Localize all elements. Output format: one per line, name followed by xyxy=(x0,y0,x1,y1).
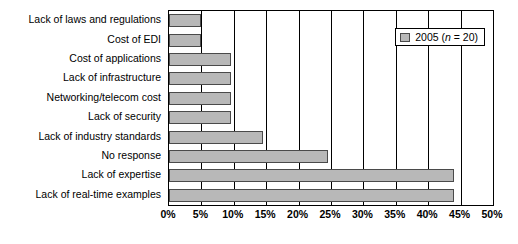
bar xyxy=(169,34,201,47)
category-label: Lack of expertise xyxy=(82,169,161,180)
category-label: Networking/telecom cost xyxy=(47,92,161,103)
value-tick-label: 50% xyxy=(472,208,512,220)
bar xyxy=(169,72,231,85)
legend: 2005 (n = 20) xyxy=(395,28,485,46)
bar xyxy=(169,131,263,144)
bar xyxy=(169,111,231,124)
category-label: Lack of laws and regulations xyxy=(29,14,162,25)
category-label: Lack of industry standards xyxy=(38,131,161,142)
bar xyxy=(169,53,231,66)
legend-swatch-2005 xyxy=(400,33,410,42)
value-axis-labels: 0%5%10%15%20%25%30%35%40%45%50% xyxy=(168,208,494,224)
category-label: Lack of security xyxy=(88,111,161,122)
bar xyxy=(169,14,201,27)
category-label: Lack of infrastructure xyxy=(63,72,161,83)
bar xyxy=(169,189,454,202)
horizontal-bar-chart: Lack of laws and regulationsCost of EDIC… xyxy=(0,0,518,244)
category-label: Cost of EDI xyxy=(107,34,161,45)
plot-area: 2005 (n = 20) xyxy=(168,10,494,206)
legend-label-2005: 2005 (n = 20) xyxy=(415,31,478,43)
category-label: Lack of real-time examples xyxy=(36,189,161,200)
bar xyxy=(169,169,454,182)
category-label: Cost of applications xyxy=(69,53,161,64)
bar xyxy=(169,150,328,163)
category-axis-labels: Lack of laws and regulationsCost of EDIC… xyxy=(0,10,165,206)
category-label: No response xyxy=(101,150,161,161)
bar xyxy=(169,92,231,105)
